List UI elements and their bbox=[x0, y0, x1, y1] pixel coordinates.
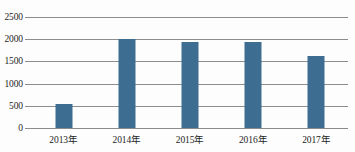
y-tick-mark bbox=[25, 106, 32, 107]
y-axis-label: 0 bbox=[18, 123, 23, 133]
y-tick-mark bbox=[25, 61, 32, 62]
bar bbox=[245, 42, 262, 128]
y-tick-mark bbox=[25, 128, 32, 129]
y-tick-mark bbox=[25, 84, 32, 85]
y-axis-label: 1000 bbox=[4, 79, 23, 89]
y-axis-label: 500 bbox=[9, 101, 23, 111]
y-axis-label: 1500 bbox=[4, 56, 23, 66]
plot-area: 05001000150020002500 bbox=[32, 17, 348, 128]
bar-chart: 05001000150020002500 2013年2014年2015年2016… bbox=[0, 0, 355, 152]
x-axis-label: 2013年 bbox=[49, 132, 78, 146]
bar bbox=[118, 39, 135, 128]
bars-layer bbox=[32, 17, 348, 128]
bar bbox=[308, 56, 325, 128]
y-axis-label: 2000 bbox=[4, 34, 23, 44]
x-axis-label: 2017年 bbox=[302, 132, 331, 146]
gridline-0 bbox=[32, 128, 348, 129]
y-axis-label: 2500 bbox=[4, 12, 23, 22]
bar bbox=[55, 104, 72, 128]
x-axis-label: 2016年 bbox=[239, 132, 268, 146]
x-axis-label: 2015年 bbox=[176, 132, 205, 146]
x-axis-label: 2014年 bbox=[113, 132, 142, 146]
y-tick-mark bbox=[25, 39, 32, 40]
y-tick-mark bbox=[25, 17, 32, 18]
bar bbox=[182, 42, 199, 128]
